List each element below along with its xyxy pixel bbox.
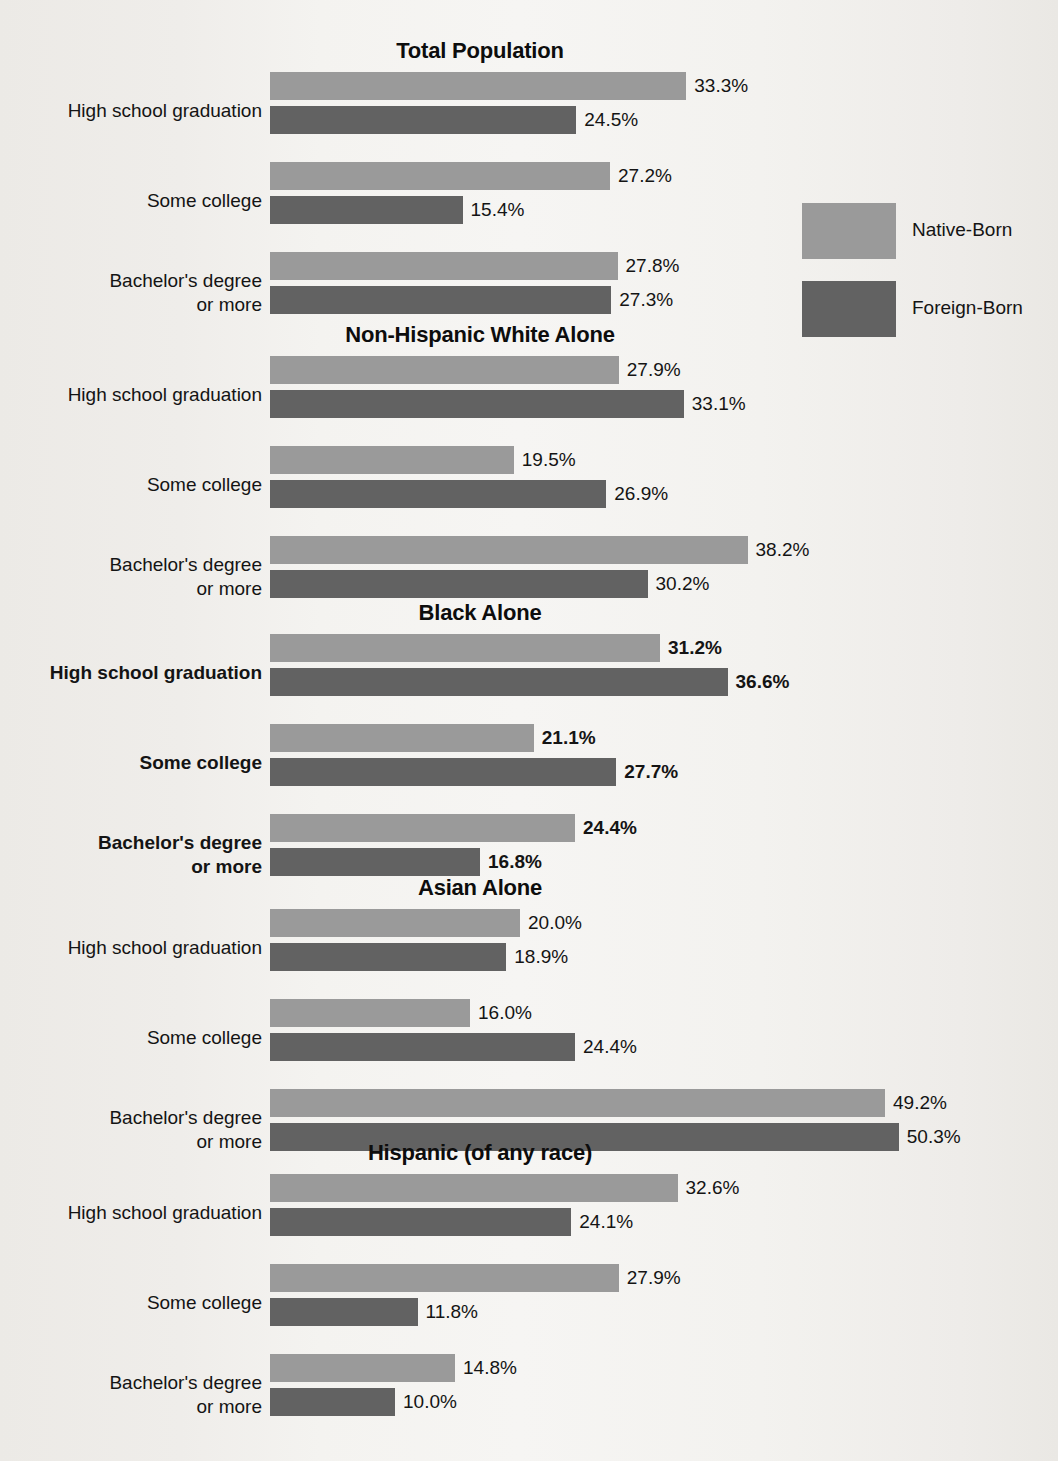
bar-native-born	[270, 724, 534, 752]
bar-value-label: 15.4%	[471, 198, 525, 222]
bar-foreign-born	[270, 1208, 571, 1236]
bar-foreign-born	[270, 848, 480, 876]
bar-value-label: 24.1%	[579, 1210, 633, 1234]
panel-title: Hispanic (of any race)	[0, 1140, 960, 1166]
bar-foreign-born	[270, 570, 648, 598]
bar-native-born	[270, 356, 619, 384]
category-label-line: Bachelor's degree	[109, 1107, 262, 1128]
category-label-line: Bachelor's degree	[109, 1372, 262, 1393]
bar-foreign-born	[270, 1388, 395, 1416]
bar-native-born	[270, 162, 610, 190]
bar-foreign-born	[270, 286, 611, 314]
bar-native-born	[270, 1174, 678, 1202]
bar-value-label: 18.9%	[514, 945, 568, 969]
bar-value-label: 19.5%	[522, 448, 576, 472]
bar-value-label: 16.0%	[478, 1001, 532, 1025]
bar-value-label: 14.8%	[463, 1356, 517, 1380]
bar-value-label: 33.3%	[694, 74, 748, 98]
bar-value-label: 27.8%	[626, 254, 680, 278]
category-label-line: Some college	[147, 1027, 262, 1048]
category-label: High school graduation	[0, 99, 262, 122]
bar-value-label: 20.0%	[528, 911, 582, 935]
bar-native-born	[270, 1354, 455, 1382]
category-label-line: High school graduation	[68, 100, 262, 121]
bar-value-label: 36.6%	[736, 670, 790, 694]
category-label: High school graduation	[0, 936, 262, 959]
category-label-line: Bachelor's degree	[109, 270, 262, 291]
category-label-line: High school graduation	[68, 384, 262, 405]
legend-swatch-native-born-icon	[802, 203, 896, 259]
bar-foreign-born	[270, 390, 684, 418]
category-label: Some college	[0, 1026, 262, 1049]
panel-title: Total Population	[0, 38, 960, 64]
bar-value-label: 49.2%	[893, 1091, 947, 1115]
bar-value-label: 31.2%	[668, 636, 722, 660]
bar-foreign-born	[270, 106, 576, 134]
bar-foreign-born	[270, 196, 463, 224]
category-label-line: Bachelor's degree	[109, 554, 262, 575]
bar-value-label: 27.9%	[627, 358, 681, 382]
category-label: Some college	[0, 473, 262, 496]
panel-title: Black Alone	[0, 600, 960, 626]
bar-value-label: 24.5%	[584, 108, 638, 132]
category-label-line: Some college	[147, 190, 262, 211]
chart-canvas: Total PopulationHigh school graduation33…	[0, 0, 1058, 1461]
bar-value-label: 30.2%	[656, 572, 710, 596]
bar-native-born	[270, 909, 520, 937]
legend-label-native-born: Native-Born	[912, 219, 1012, 241]
bar-value-label: 27.9%	[627, 1266, 681, 1290]
bar-native-born	[270, 634, 660, 662]
category-label-line: High school graduation	[50, 662, 262, 683]
bar-native-born	[270, 1264, 619, 1292]
bar-foreign-born	[270, 758, 616, 786]
bar-native-born	[270, 999, 470, 1027]
bar-foreign-born	[270, 480, 606, 508]
category-label: Some college	[0, 751, 262, 774]
bar-value-label: 33.1%	[692, 392, 746, 416]
bar-foreign-born	[270, 1033, 575, 1061]
bar-foreign-born	[270, 668, 728, 696]
bar-value-label: 27.7%	[624, 760, 678, 784]
bar-value-label: 16.8%	[488, 850, 542, 874]
category-label-line: High school graduation	[68, 937, 262, 958]
bar-native-born	[270, 446, 514, 474]
category-label-line: Some college	[140, 752, 263, 773]
bar-value-label: 32.6%	[686, 1176, 740, 1200]
category-label: High school graduation	[0, 383, 262, 406]
category-label: Bachelor's degreeor more	[0, 553, 262, 601]
category-label-line: or more	[197, 1396, 262, 1417]
bar-native-born	[270, 1089, 885, 1117]
bar-foreign-born	[270, 1298, 418, 1326]
bar-native-born	[270, 814, 575, 842]
category-label: Bachelor's degreeor more	[0, 1371, 262, 1419]
category-label: High school graduation	[0, 661, 262, 684]
bar-value-label: 10.0%	[403, 1390, 457, 1414]
bar-native-born	[270, 252, 618, 280]
bar-value-label: 27.3%	[619, 288, 673, 312]
category-label-line: High school graduation	[68, 1202, 262, 1223]
category-label: High school graduation	[0, 1201, 262, 1224]
bar-native-born	[270, 536, 748, 564]
legend-swatch-foreign-born-icon	[802, 281, 896, 337]
bar-value-label: 27.2%	[618, 164, 672, 188]
category-label: Some college	[0, 189, 262, 212]
bar-value-label: 11.8%	[426, 1300, 478, 1324]
bar-foreign-born	[270, 943, 506, 971]
category-label: Some college	[0, 1291, 262, 1314]
bar-native-born	[270, 72, 686, 100]
bar-value-label: 26.9%	[614, 482, 668, 506]
bar-value-label: 21.1%	[542, 726, 596, 750]
category-label-line: Some college	[147, 1292, 262, 1313]
panel-title: Asian Alone	[0, 875, 960, 901]
bar-value-label: 24.4%	[583, 1035, 637, 1059]
category-label: Bachelor's degreeor more	[0, 269, 262, 317]
category-label-line: Bachelor's degree	[98, 832, 262, 853]
bar-value-label: 24.4%	[583, 816, 637, 840]
category-label-line: or more	[191, 856, 262, 877]
legend-label-foreign-born: Foreign-Born	[912, 297, 1023, 319]
bar-value-label: 38.2%	[756, 538, 810, 562]
category-label-line: Some college	[147, 474, 262, 495]
category-label: Bachelor's degreeor more	[0, 831, 262, 879]
category-label-line: or more	[197, 578, 262, 599]
category-label-line: or more	[197, 294, 262, 315]
